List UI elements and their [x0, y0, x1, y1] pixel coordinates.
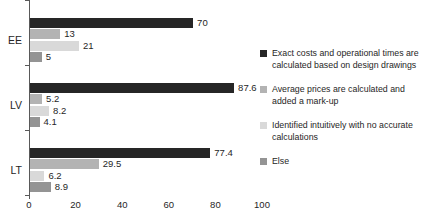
legend-label: Average prices are calculated and added …	[272, 84, 424, 107]
category-axis-tick	[25, 130, 29, 131]
data-label: 4.1	[44, 117, 57, 127]
data-label: 8.9	[55, 182, 68, 192]
legend-swatch	[260, 158, 267, 165]
bar-EE-series4	[30, 52, 42, 62]
bar-EE-series2	[30, 29, 60, 39]
data-label: 5	[46, 52, 51, 62]
bar-LT-series2	[30, 159, 99, 169]
legend-entry: Identified intuitively with no accurate …	[260, 120, 424, 143]
x-tick-label: 80	[200, 199, 230, 211]
legend: Exact costs and operational times are ca…	[260, 48, 424, 168]
legend-entry: Average prices are calculated and added …	[260, 84, 424, 107]
legend-swatch	[260, 86, 267, 93]
x-tick-label: 0	[14, 199, 44, 211]
bar-EE-series3	[30, 41, 79, 51]
category-axis-tick	[25, 0, 29, 1]
x-tick-label: 20	[61, 199, 91, 211]
data-label: 6.2	[48, 171, 61, 181]
plot-area: EELVLT020406080100701321587.65.28.24.177…	[0, 0, 262, 219]
bar-LV-series3	[30, 106, 49, 116]
x-tick-label: 60	[154, 199, 184, 211]
legend-swatch	[260, 50, 267, 57]
legend-entry: Else	[260, 156, 424, 168]
category-axis-tick	[25, 65, 29, 66]
x-tick-label: 40	[107, 199, 137, 211]
data-label: 29.5	[103, 159, 122, 169]
legend-label: Else	[272, 156, 424, 168]
legend-label: Exact costs and operational times are ca…	[272, 48, 424, 71]
data-label: 5.2	[46, 94, 59, 104]
bar-LV-series2	[30, 94, 42, 104]
bar-LV-series4	[30, 117, 40, 127]
data-label: 21	[83, 41, 94, 51]
category-label: LT	[0, 164, 22, 176]
data-label: 77.4	[214, 148, 233, 158]
bar-LT-series1	[30, 148, 210, 158]
bar-LT-series4	[30, 182, 51, 192]
bar-LT-series3	[30, 171, 44, 181]
bar-LV-series1	[30, 83, 234, 93]
legend-entry: Exact costs and operational times are ca…	[260, 48, 424, 71]
category-label: LV	[0, 99, 22, 111]
data-label: 70	[197, 18, 208, 28]
data-label: 87.6	[238, 83, 257, 93]
category-axis-tick	[25, 195, 29, 196]
bar-EE-series1	[30, 18, 193, 28]
x-tick-label: 100	[247, 199, 277, 211]
legend-label: Identified intuitively with no accurate …	[272, 120, 424, 143]
data-label: 8.2	[53, 106, 66, 116]
legend-swatch	[260, 122, 267, 129]
category-label: EE	[0, 34, 22, 46]
data-label: 13	[64, 29, 75, 39]
bar-chart: EELVLT020406080100701321587.65.28.24.177…	[0, 0, 424, 219]
